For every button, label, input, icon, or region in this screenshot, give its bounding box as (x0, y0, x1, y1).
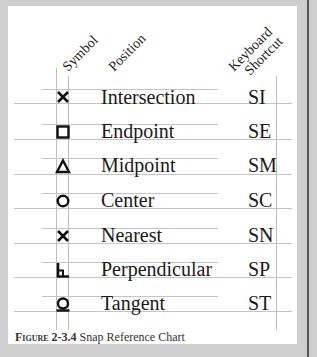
shortcut-column-line (276, 76, 277, 330)
circle-icon (55, 193, 71, 209)
page-edge (307, 0, 309, 357)
tangent-icon (55, 296, 71, 312)
square-icon (55, 124, 71, 140)
shortcut-label: SM (248, 154, 277, 176)
shortcut-label: ST (248, 292, 271, 314)
x-mark-icon (55, 228, 71, 244)
snap-reference-chart: Symbol Position Keyboard Shortcut Inters… (8, 6, 297, 344)
header-symbol: Symbol (60, 33, 101, 74)
position-label: Intersection (101, 86, 195, 108)
position-label: Perpendicular (101, 258, 212, 280)
shortcut-label: SI (248, 86, 266, 108)
shortcut-label: SP (248, 258, 270, 280)
shortcut-label: SC (248, 189, 272, 211)
position-label: Nearest (101, 224, 162, 246)
shortcut-label: SE (248, 120, 271, 142)
position-label: Tangent (101, 292, 165, 314)
header-position: Position (106, 32, 148, 74)
figure-title: Snap Reference Chart (80, 330, 185, 344)
triangle-icon (55, 158, 71, 174)
position-label: Endpoint (101, 120, 174, 142)
perpendicular-icon (55, 262, 71, 278)
figure-caption: Figure 2-3.4 Snap Reference Chart (15, 330, 185, 345)
position-label: Midpoint (101, 154, 175, 176)
shortcut-label: SN (248, 224, 274, 246)
x-mark-icon (55, 89, 71, 105)
figure-label: Figure 2-3.4 (15, 330, 77, 344)
position-label: Center (101, 189, 154, 211)
